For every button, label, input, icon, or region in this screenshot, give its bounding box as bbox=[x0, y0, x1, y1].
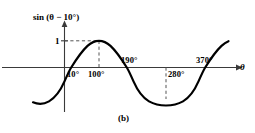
x-axis-title: θ bbox=[240, 63, 245, 72]
sine-curve bbox=[33, 41, 229, 106]
figure-container: sin (θ − 10°) 1 10° 100° 190° 280° 370° … bbox=[0, 0, 255, 133]
x-tick-label-10-degrees: 10° bbox=[67, 70, 79, 79]
x-tick-label-370-degrees: 370° bbox=[196, 56, 213, 65]
x-tick-label-190-degrees: 190° bbox=[121, 56, 138, 65]
x-tick-label-100-degrees: 100° bbox=[88, 70, 105, 79]
y-axis-title: sin (θ − 10°) bbox=[33, 13, 79, 22]
figure-caption: (b) bbox=[118, 114, 129, 123]
x-tick-label-280-degrees: 280° bbox=[168, 70, 185, 79]
y-tick-label-1: 1 bbox=[55, 37, 60, 46]
